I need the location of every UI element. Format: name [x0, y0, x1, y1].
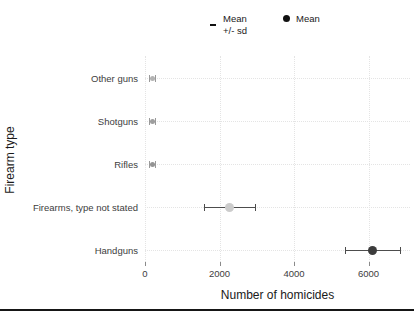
legend: Mean +/- sd Mean	[208, 13, 320, 37]
y-category-label-shotguns: Shotguns	[0, 116, 138, 127]
gridline-vertical	[294, 56, 295, 262]
x-tick-label: 6000	[358, 268, 379, 279]
x-tick-mark	[294, 262, 295, 266]
error-bar-cap-right-shotguns	[155, 118, 156, 125]
x-tick-mark	[220, 262, 221, 266]
y-category-label-other-guns: Other guns	[0, 73, 138, 84]
data-point-shotguns	[150, 119, 155, 124]
legend-label-mean: Mean	[296, 13, 320, 25]
x-axis-title: Number of homicides	[145, 288, 410, 302]
x-tick-label: 4000	[283, 268, 304, 279]
data-point-rifles	[150, 162, 155, 167]
legend-item-mean-sd: Mean +/- sd	[208, 13, 247, 37]
data-point-firearms-type-not-stated	[225, 203, 234, 212]
x-tick-label: 2000	[209, 268, 230, 279]
y-axis-title: Firearm type	[3, 126, 17, 193]
y-category-label-firearms-type-not-stated: Firearms, type not stated	[0, 202, 138, 213]
filled-circle-icon	[281, 13, 291, 22]
error-bar-cap-right-firearms-type-not-stated	[255, 204, 256, 211]
error-bar-cap-right-rifles	[155, 161, 156, 168]
gridline-horizontal	[145, 121, 410, 122]
gridline-horizontal	[145, 164, 410, 165]
x-tick-mark	[369, 262, 370, 266]
errorbar-dash-icon	[208, 13, 218, 37]
gridline-vertical	[369, 56, 370, 262]
bottom-divider	[0, 309, 414, 311]
data-point-other-guns	[150, 76, 155, 81]
data-point-handguns	[368, 246, 377, 255]
gridline-vertical	[220, 56, 221, 262]
x-tick-label: 0	[142, 268, 147, 279]
gridline-horizontal	[145, 78, 410, 79]
legend-item-mean: Mean	[281, 13, 320, 37]
error-bar-cap-right-handguns	[400, 247, 401, 254]
legend-label-mean-sd: Mean +/- sd	[223, 13, 247, 37]
gridline-vertical	[145, 56, 146, 262]
x-tick-mark	[145, 262, 146, 266]
y-category-label-rifles: Rifles	[0, 159, 138, 170]
homicide-dotplot-chart: Other gunsShotgunsRiflesFirearms, type n…	[0, 0, 414, 318]
error-bar-cap-left-handguns	[345, 247, 346, 254]
error-bar-cap-right-other-guns	[155, 75, 156, 82]
y-category-label-handguns: Handguns	[0, 245, 138, 256]
error-bar-cap-left-firearms-type-not-stated	[204, 204, 205, 211]
gridline-horizontal	[145, 207, 410, 208]
